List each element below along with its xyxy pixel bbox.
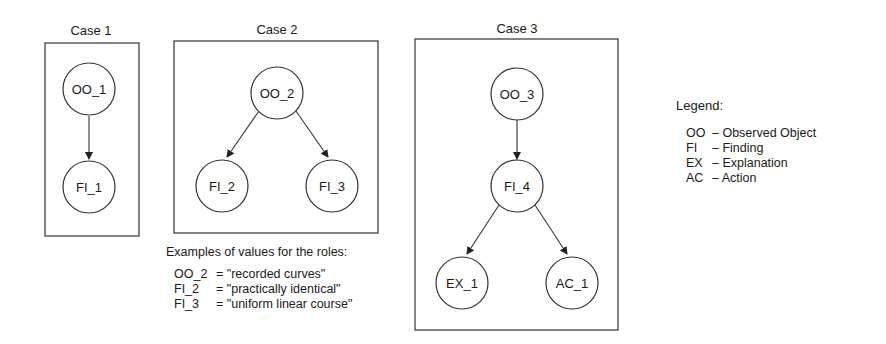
node-fi-1-label: FI_1 (76, 180, 102, 195)
example-key: FI_2 (174, 282, 216, 296)
example-key: OO_2 (174, 267, 216, 281)
edge-oo2-fi2 (227, 111, 259, 157)
legend-item: EX– Explanation (686, 156, 788, 171)
node-oo-2-label: OO_2 (260, 86, 295, 101)
legend-item: AC– Action (686, 171, 756, 186)
legend-meaning: – Explanation (712, 156, 788, 170)
node-fi-2-label: FI_2 (209, 179, 235, 194)
example-value: = "practically identical" (216, 282, 341, 296)
example-key: FI_3 (174, 297, 216, 311)
legend-abbr: EX (686, 156, 712, 171)
edge-oo2-fi3 (296, 111, 328, 157)
node-ac-1-label: AC_1 (556, 276, 589, 291)
legend-title: Legend: (676, 98, 723, 113)
legend-item: OO– Observed Object (686, 126, 816, 141)
node-oo-1-label: OO_1 (72, 82, 107, 97)
example-row: FI_3= "uniform linear course" (174, 297, 352, 311)
case-1-group: Case 1 OO_1 FI_1 (45, 23, 139, 236)
case-2-group: Case 2 OO_2 FI_2 FI_3 (174, 22, 378, 233)
legend-abbr: OO (686, 126, 712, 141)
legend-meaning: – Observed Object (712, 126, 816, 140)
examples-title: Examples of values for the roles: (166, 245, 347, 259)
example-row: FI_2= "practically identical" (174, 282, 341, 296)
legend-abbr: AC (686, 171, 712, 186)
edge-fi4-ac1 (535, 205, 567, 254)
legend-abbr: FI (686, 141, 712, 156)
case-3-title: Case 3 (496, 21, 537, 36)
case-1-title: Case 1 (70, 23, 111, 38)
case-3-group: Case 3 OO_3 FI_4 EX_1 AC_1 (415, 21, 618, 330)
node-ex-1-label: EX_1 (446, 276, 478, 291)
example-value: = "uniform linear course" (216, 297, 352, 311)
edge-fi4-ex1 (467, 205, 499, 254)
legend-meaning: – Action (712, 171, 756, 185)
example-row: OO_2= "recorded curves" (174, 267, 325, 281)
legend-meaning: – Finding (712, 141, 763, 155)
node-fi-3-label: FI_3 (319, 179, 345, 194)
legend-item: FI– Finding (686, 141, 763, 156)
case-2-title: Case 2 (256, 22, 297, 37)
node-fi-4-label: FI_4 (504, 179, 530, 194)
example-value: = "recorded curves" (216, 267, 325, 281)
node-oo-3-label: OO_3 (500, 87, 535, 102)
